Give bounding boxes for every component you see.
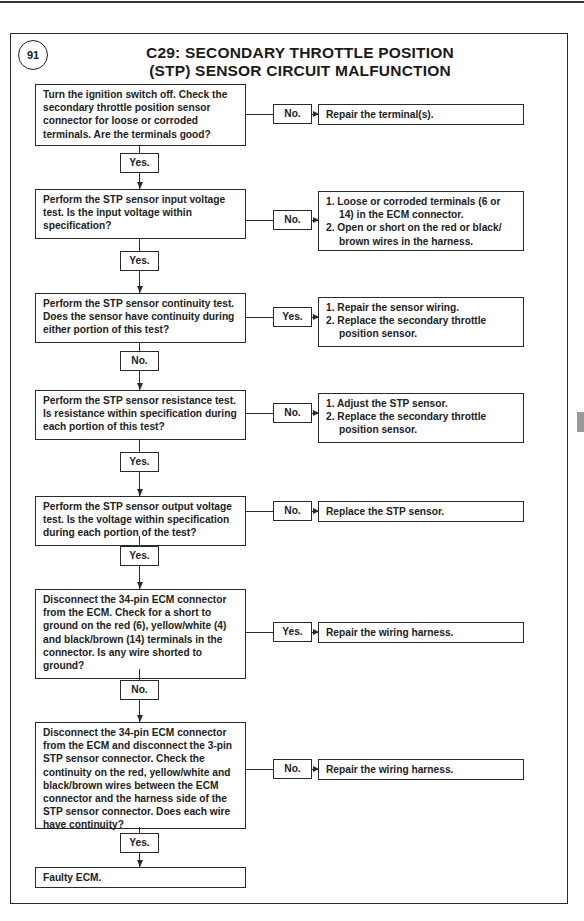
step-5-down-label: Yes. bbox=[120, 546, 159, 566]
arrow-down-icon bbox=[137, 582, 143, 589]
step-3-result-item: 2. Replace the secondary throttle positi… bbox=[326, 314, 516, 340]
title-line-1: C29: SECONDARY THROTTLE POSITION bbox=[110, 44, 490, 62]
step-4-result-item: 2. Replace the secondary throttle positi… bbox=[326, 410, 516, 436]
title-line-2: (STP) SENSOR CIRCUIT MALFUNCTION bbox=[110, 62, 490, 80]
arrow-down-icon bbox=[137, 383, 143, 390]
step-5-side-label: No. bbox=[273, 501, 312, 521]
step-4-side-label: No. bbox=[273, 403, 312, 423]
arrow-down-icon bbox=[137, 715, 143, 722]
step-6-result: Repair the wiring harness. bbox=[318, 622, 524, 643]
step-4-down-label: Yes. bbox=[120, 452, 159, 472]
step-2-result-item: 1. Loose or corroded terminals (6 or 14)… bbox=[326, 195, 516, 221]
step-5-result-text: Replace the STP sensor. bbox=[326, 506, 444, 517]
arrow-down-icon bbox=[137, 286, 143, 293]
step-5-result: Replace the STP sensor. bbox=[318, 501, 524, 522]
step-2-result: 1. Loose or corroded terminals (6 or 14)… bbox=[318, 191, 524, 251]
final-result: Faulty ECM. bbox=[35, 867, 246, 888]
step-1-question: Turn the ignition switch off. Check the … bbox=[35, 84, 246, 146]
connector-line bbox=[246, 511, 273, 512]
page-number-badge: 91 bbox=[18, 40, 48, 70]
step-4-question: Perform the STP sensor resistance test. … bbox=[35, 390, 246, 440]
step-7-side-label: No. bbox=[273, 759, 312, 779]
step-1-text: Turn the ignition switch off. Check the … bbox=[43, 89, 227, 140]
step-7-question: Disconnect the 34-pin ECM connector from… bbox=[35, 722, 246, 829]
step-4-text: Perform the STP sensor resistance test. … bbox=[43, 395, 237, 432]
step-2-question: Perform the STP sensor input voltage tes… bbox=[35, 189, 246, 239]
step-6-result-text: Repair the wiring harness. bbox=[326, 627, 453, 638]
step-6-side-label: Yes. bbox=[273, 622, 312, 642]
step-6-down-label: No. bbox=[120, 680, 159, 700]
step-2-side-label: No. bbox=[273, 210, 312, 230]
step-2-text: Perform the STP sensor input voltage tes… bbox=[43, 194, 225, 231]
page-number: 91 bbox=[27, 49, 39, 61]
step-3-result-item: 1. Repair the sensor wiring. bbox=[326, 301, 516, 314]
section-tab-marker bbox=[577, 412, 584, 432]
final-result-text: Faulty ECM. bbox=[43, 872, 101, 883]
page-title: C29: SECONDARY THROTTLE POSITION (STP) S… bbox=[110, 44, 490, 80]
step-7-result: Repair the wiring harness. bbox=[318, 759, 524, 780]
step-2-down-label: Yes. bbox=[120, 251, 159, 271]
connector-line bbox=[246, 114, 273, 115]
arrow-down-icon bbox=[137, 489, 143, 496]
step-3-text: Perform the STP sensor continuity test. … bbox=[43, 298, 234, 335]
step-4-result-item: 1. Adjust the STP sensor. bbox=[326, 397, 516, 410]
top-rule bbox=[0, 1, 584, 3]
connector-line bbox=[246, 317, 273, 318]
step-1-side-label: No. bbox=[273, 104, 312, 124]
step-3-result: 1. Repair the sensor wiring. 2. Replace … bbox=[318, 297, 524, 347]
step-3-side-label: Yes. bbox=[273, 307, 312, 327]
step-1-down-label: Yes. bbox=[120, 153, 159, 173]
step-2-result-item: 2. Open or short on the red or black/ br… bbox=[326, 221, 516, 247]
step-7-down-label: Yes. bbox=[120, 833, 159, 853]
connector-line bbox=[246, 220, 273, 221]
arrow-down-icon bbox=[137, 860, 143, 867]
arrow-down-icon bbox=[137, 182, 143, 189]
step-3-down-label: No. bbox=[120, 351, 159, 371]
step-4-result: 1. Adjust the STP sensor. 2. Replace the… bbox=[318, 393, 524, 443]
connector-line bbox=[246, 413, 273, 414]
step-5-question: Perform the STP sensor output voltage te… bbox=[35, 496, 246, 546]
connector-line bbox=[246, 769, 273, 770]
step-7-result-text: Repair the wiring harness. bbox=[326, 764, 453, 775]
step-5-text: Perform the STP sensor output voltage te… bbox=[43, 501, 232, 538]
connector-line bbox=[246, 632, 273, 633]
step-1-result-text: Repair the terminal(s). bbox=[326, 109, 434, 120]
step-1-result: Repair the terminal(s). bbox=[318, 104, 524, 125]
step-7-text: Disconnect the 34-pin ECM connector from… bbox=[43, 727, 232, 830]
step-6-question: Disconnect the 34-pin ECM connector from… bbox=[35, 589, 246, 679]
step-3-question: Perform the STP sensor continuity test. … bbox=[35, 293, 246, 343]
step-6-text: Disconnect the 34-pin ECM connector from… bbox=[43, 594, 226, 671]
